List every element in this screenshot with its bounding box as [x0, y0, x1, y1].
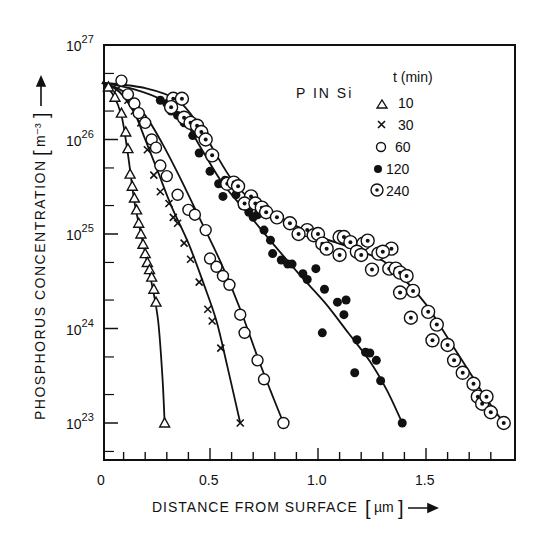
dotted-circle-center-icon — [489, 410, 493, 414]
open-circle-marker-icon — [161, 171, 172, 182]
fitted-curves — [102, 83, 504, 423]
dotted-circle-center-icon — [452, 358, 456, 362]
triangle-marker-icon — [116, 108, 126, 117]
triangle-marker-icon — [136, 229, 146, 238]
open-circle-marker-icon — [189, 209, 200, 220]
legend-entry-10: 10 — [377, 95, 414, 111]
legend-entry-60: 60 — [377, 139, 411, 155]
dotted-circle-center-icon — [389, 247, 393, 251]
filled-circle-marker-icon — [195, 148, 204, 157]
dotted-circle-center-icon — [375, 188, 379, 192]
triangle-marker-icon — [138, 239, 148, 248]
dotted-circle-center-icon — [411, 289, 415, 293]
dotted-circle-center-icon — [405, 274, 409, 278]
x-marker-icon — [209, 318, 216, 325]
triangle-marker-icon — [134, 218, 144, 227]
y-axis-unit-bracket-left: [ — [30, 150, 52, 156]
filled-circle-marker-icon — [260, 226, 269, 235]
x-tick-label-1.5: 1.5 — [415, 472, 435, 488]
x-marker-icon — [150, 172, 157, 179]
x-marker-icon — [181, 240, 188, 247]
dotted-circle-center-icon — [446, 343, 450, 347]
open-circle-marker-icon — [377, 143, 386, 152]
legend-label-30: 30 — [398, 117, 414, 133]
triangle-marker-icon — [123, 144, 133, 153]
triangle-marker-icon — [121, 127, 131, 136]
dotted-circle-center-icon — [236, 184, 240, 188]
filled-circle-marker-icon — [374, 165, 382, 173]
y-tick-label: 1026 — [66, 128, 94, 149]
dotted-circle-center-icon — [381, 250, 385, 254]
dotted-circle-center-icon — [398, 291, 402, 295]
x-axis-title-text: DISTANCE FROM SURFACE — [152, 499, 358, 515]
y-tick-label: 1025 — [66, 222, 94, 243]
chart-canvas: 10231024102510261027 P IN Si t (min) 10 … — [0, 0, 540, 539]
open-circle-marker-icon — [172, 189, 183, 200]
legend-entry-240: 240 — [371, 183, 410, 199]
triangle-marker-icon — [377, 100, 387, 108]
filled-circle-marker-icon — [303, 275, 312, 284]
x-marker-icon — [204, 306, 211, 313]
filled-circle-marker-icon — [288, 260, 297, 269]
y-tick-label: 1027 — [66, 33, 94, 54]
dotted-circle-center-icon — [461, 371, 465, 375]
dotted-circle-center-icon — [338, 253, 342, 257]
legend: t (min) 10 30 60 120 240 — [371, 69, 433, 199]
dotted-circle-center-icon — [472, 382, 476, 386]
filled-circle-marker-icon — [372, 356, 381, 365]
x-marker-icon — [187, 256, 194, 263]
triangle-marker-icon — [149, 284, 159, 293]
filled-circle-marker-icon — [318, 328, 327, 337]
x-axis-title: DISTANCE FROM SURFACE [ µm ] — [152, 497, 437, 519]
dotted-circle-center-icon — [502, 421, 506, 425]
dotted-circle-center-icon — [484, 395, 488, 399]
dotted-circle-center-icon — [297, 232, 301, 236]
filled-circle-marker-icon — [320, 285, 329, 294]
triangle-marker-icon — [151, 297, 161, 306]
filled-circle-marker-icon — [398, 419, 407, 428]
y-axis-arrow-icon — [37, 77, 45, 106]
dotted-circle-center-icon — [204, 138, 208, 142]
dotted-circle-center-icon — [409, 316, 413, 320]
filled-circle-marker-icon — [268, 249, 277, 258]
filled-circle-marker-icon — [365, 349, 374, 358]
dotted-circle-center-icon — [426, 310, 430, 314]
open-circle-marker-icon — [155, 160, 166, 171]
filled-circle-marker-icon — [311, 264, 320, 273]
open-circle-marker-icon — [278, 418, 289, 429]
dotted-circle-center-icon — [275, 215, 279, 219]
legend-label-10: 10 — [398, 95, 414, 111]
open-circle-marker-icon — [224, 279, 235, 290]
y-axis-title-text: PHOSPHORUS CONCENTRATION — [32, 159, 48, 420]
filled-circle-marker-icon — [352, 335, 361, 344]
filled-circle-marker-icon — [333, 298, 342, 307]
y-axis-unit-bracket-right: ] — [30, 112, 52, 118]
x-axis-ticks — [124, 448, 491, 460]
y-tick-label: 1023 — [66, 411, 94, 432]
y-axis-title: PHOSPHORUS CONCENTRATION [ m⁻³ ] — [30, 77, 52, 420]
x-tick-label-0: 0 — [97, 472, 105, 488]
dotted-circle-center-icon — [264, 210, 268, 214]
dotted-circle-center-icon — [348, 240, 352, 244]
open-circle-marker-icon — [200, 225, 211, 236]
open-circle-marker-icon — [151, 142, 162, 153]
open-circle-marker-icon — [140, 117, 151, 128]
filled-circle-marker-icon — [266, 236, 275, 245]
y-axis-unit: m⁻³ — [32, 123, 48, 147]
x-marker-icon — [378, 121, 385, 128]
y-axis-ticks: 10231024102510261027 — [66, 33, 118, 451]
dotted-circle-center-icon — [288, 221, 292, 225]
x-axis-unit-bracket-right: ] — [398, 497, 404, 519]
open-circle-marker-icon — [239, 327, 250, 338]
legend-label-240: 240 — [386, 183, 410, 199]
filled-circle-marker-icon — [342, 296, 351, 305]
legend-label-120: 120 — [386, 161, 410, 177]
triangle-marker-icon — [142, 257, 152, 266]
dotted-circle-center-icon — [180, 97, 184, 101]
data-markers — [103, 75, 510, 429]
dotted-circle-center-icon — [359, 253, 363, 257]
legend-entry-30: 30 — [378, 117, 414, 133]
diffusion-profile-chart: 10231024102510261027 P IN Si t (min) 10 … — [0, 0, 540, 539]
triangle-marker-icon — [140, 249, 150, 258]
dotted-circle-center-icon — [370, 268, 374, 272]
